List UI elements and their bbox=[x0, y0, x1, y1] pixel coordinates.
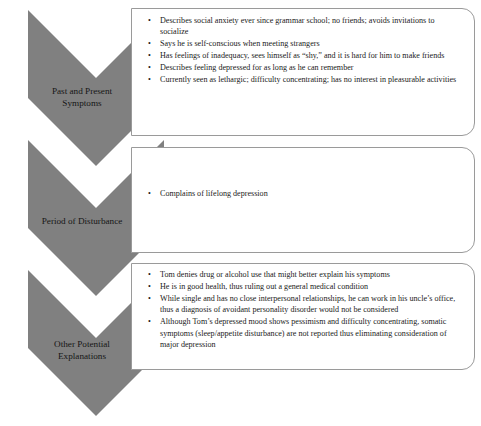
content-box-other-potential-explanations: • Tom denies drug or alcohol use that mi… bbox=[131, 263, 475, 370]
chevron-flow-diagram: • Describes social anxiety ever since gr… bbox=[0, 0, 481, 426]
chevron-label-line: Explanations bbox=[8, 350, 156, 362]
chevron-label-line: Symptoms bbox=[8, 97, 156, 109]
bullet-text: Currently seen as lethargic; difficulty … bbox=[160, 74, 464, 85]
bullet-icon: • bbox=[148, 50, 151, 61]
bullet-list-2: • Complains of lifelong depression bbox=[132, 148, 474, 199]
bullet-text: Has feelings of inadequacy, sees himself… bbox=[160, 50, 464, 61]
bullet-text: While single and has no close interperso… bbox=[160, 293, 464, 316]
list-item: • Describes social anxiety ever since gr… bbox=[142, 15, 464, 38]
list-item: • Says he is self-conscious when meeting… bbox=[142, 38, 464, 49]
bullet-icon: • bbox=[148, 316, 151, 327]
bullet-text: Describes feeling depressed for as long … bbox=[160, 62, 464, 73]
list-item: • Although Tom’s depressed mood shows pe… bbox=[142, 316, 464, 350]
list-item: • Currently seen as lethargic; difficult… bbox=[142, 74, 464, 85]
bullet-icon: • bbox=[148, 281, 151, 292]
bullet-text: Complains of lifelong depression bbox=[160, 188, 464, 199]
list-item: • He is in good health, thus ruling out … bbox=[142, 281, 464, 292]
list-item: • Describes feeling depressed for as lon… bbox=[142, 62, 464, 73]
bullet-icon: • bbox=[148, 293, 151, 304]
bullet-text: Although Tom’s depressed mood shows pess… bbox=[160, 316, 464, 350]
bullet-list-3: • Tom denies drug or alcohol use that mi… bbox=[132, 264, 474, 351]
chevron-label-other-potential-explanations: Other Potential Explanations bbox=[8, 338, 156, 363]
chevron-label-period-of-disturbance: Period of Disturbance bbox=[8, 215, 156, 227]
chevron-label-past-present-symptoms: Past and Present Symptoms bbox=[8, 85, 156, 110]
bullet-text: Says he is self-conscious when meeting s… bbox=[160, 38, 464, 49]
chevron-label-line: Past and Present bbox=[8, 85, 156, 97]
bullet-text: He is in good health, thus ruling out a … bbox=[160, 281, 464, 292]
bullet-icon: • bbox=[148, 38, 151, 49]
chevron-label-line: Period of Disturbance bbox=[8, 215, 156, 227]
list-item: • Has feelings of inadequacy, sees himse… bbox=[142, 50, 464, 61]
bullet-list-1: • Describes social anxiety ever since gr… bbox=[132, 9, 474, 86]
list-item: • Tom denies drug or alcohol use that mi… bbox=[142, 269, 464, 280]
bullet-text: Describes social anxiety ever since gram… bbox=[160, 15, 464, 38]
content-box-period-of-disturbance: • Complains of lifelong depression bbox=[131, 147, 475, 253]
chevron-label-line: Other Potential bbox=[8, 338, 156, 350]
list-item: • While single and has no close interper… bbox=[142, 293, 464, 316]
bullet-icon: • bbox=[148, 188, 151, 199]
bullet-text: Tom denies drug or alcohol use that migh… bbox=[160, 269, 464, 280]
content-box-past-present-symptoms: • Describes social anxiety ever since gr… bbox=[131, 8, 475, 136]
bullet-icon: • bbox=[148, 62, 151, 73]
bullet-icon: • bbox=[148, 269, 151, 280]
list-item: • Complains of lifelong depression bbox=[142, 188, 464, 199]
bullet-icon: • bbox=[148, 15, 151, 26]
